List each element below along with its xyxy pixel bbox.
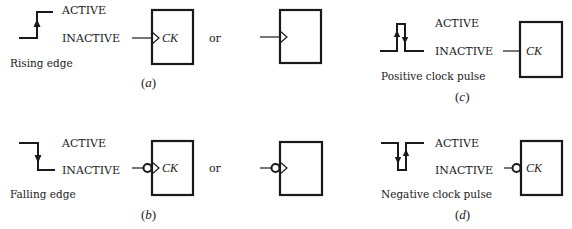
panel-b-falling-edge: ACTIVE INACTIVE Falling edge CK or (b) [10,137,322,222]
falling-edge-waveform [19,143,55,170]
positive-pulse-waveform [380,24,424,51]
inactive-level-label: INACTIVE [435,164,493,177]
inactive-level-label: INACTIVE [62,32,120,45]
ck-pin-label: CK [162,31,179,45]
ck-pin-label: CK [526,44,543,58]
flip-flop-symbol-falling [260,142,322,195]
flip-flop-symbol-rising [260,10,321,63]
arrow-up-icon [34,19,41,27]
panel-b-caption: Falling edge [10,188,76,200]
active-level-label: ACTIVE [434,137,479,150]
flip-flop-symbol-rising-ck: CK [132,10,193,64]
arrow-down-icon [35,155,42,163]
clock-trigger-diagram: ACTIVE INACTIVE Rising edge CK or (a) AC… [0,0,572,229]
panel-a-rising-edge: ACTIVE INACTIVE Rising edge CK or (a) [10,4,321,90]
rising-edge-waveform [19,12,53,38]
or-separator: or [209,32,222,45]
inversion-bubble-icon [272,164,280,172]
inversion-bubble-icon [513,164,521,172]
inversion-bubble-icon [144,164,152,172]
panel-b-sublabel: (b) [141,207,156,222]
inactive-level-label: INACTIVE [435,45,493,58]
ck-pin-label: CK [162,161,179,175]
panel-a-caption: Rising edge [10,57,73,69]
panel-d-caption: Negative clock pulse [381,188,492,200]
arrow-down-icon [402,37,408,44]
flip-flop-symbol-negative-pulse: CK [504,141,562,195]
panel-c-caption: Positive clock pulse [381,70,485,82]
arrow-up-icon [403,149,409,156]
active-level-label: ACTIVE [61,137,106,150]
active-level-label: ACTIVE [434,17,479,30]
panel-d-negative-pulse: ACTIVE INACTIVE Negative clock pulse CK … [381,137,562,222]
arrow-up-icon [394,30,400,37]
flip-flop-symbol-falling-ck: CK [132,141,193,195]
active-level-label: ACTIVE [61,4,106,17]
panel-c-sublabel: (c) [455,89,469,104]
arrow-down-icon [395,157,401,164]
panel-c-positive-pulse: ACTIVE INACTIVE Positive clock pulse CK … [380,17,562,104]
panel-d-sublabel: (d) [455,207,470,222]
negative-pulse-waveform [381,143,424,170]
ck-pin-label: CK [526,161,543,175]
or-separator: or [209,162,222,175]
flip-flop-symbol-positive-pulse: CK [503,22,562,77]
inactive-level-label: INACTIVE [62,164,120,177]
panel-a-sublabel: (a) [141,75,156,90]
